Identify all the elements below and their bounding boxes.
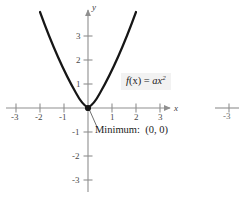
y-tick-label-3: 3 <box>76 32 81 41</box>
x-tick-label--1: -1 <box>59 113 67 122</box>
equation-argument: (x) <box>129 75 141 86</box>
y-tick-label--1: -1 <box>72 128 80 137</box>
y-tick-label--3: -3 <box>72 176 80 185</box>
vertex-point-marker <box>85 105 91 111</box>
y-tick-label--2: -2 <box>72 152 80 161</box>
equation-exponent: 2 <box>162 74 166 82</box>
parabola-figure: -3 -2 -1 1 2 3 3 2 1 -1 -2 -3 x y f(x) =… <box>0 0 239 198</box>
coordinate-plane <box>0 0 239 198</box>
x-tick-label-1: 1 <box>110 113 115 122</box>
equation-equals-sign: = <box>141 75 152 86</box>
x-axis-label: x <box>174 104 178 113</box>
x-tick-label--2: -2 <box>35 113 43 122</box>
y-axis-label: y <box>92 3 96 12</box>
function-equation-label: f(x) = ax2 <box>121 73 171 90</box>
y-tick-label-2: 2 <box>76 56 81 65</box>
equation-coefficient: ax <box>152 75 162 86</box>
y-tick-label-1: 1 <box>76 80 81 89</box>
x-tick-label-3: 3 <box>158 113 163 122</box>
minimum-annotation-label: Minimum: (0, 0) <box>95 124 168 136</box>
x-tick-label-2: 2 <box>134 113 139 122</box>
edge-fragment-tick-label: -3 <box>223 112 231 121</box>
x-tick-label--3: -3 <box>11 113 19 122</box>
